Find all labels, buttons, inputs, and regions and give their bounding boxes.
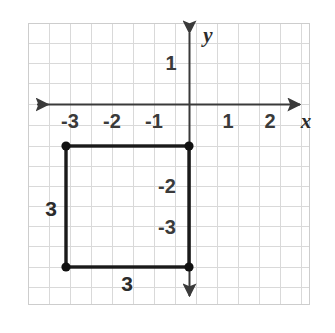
x-tick-label-pos-2: 2 xyxy=(264,111,275,131)
x-tick-label-neg-2: -2 xyxy=(103,111,121,131)
x-tick-label-pos-1: 1 xyxy=(222,111,233,131)
x-tick-label-neg-1: -1 xyxy=(145,111,163,131)
y-tick-label-neg-2: -2 xyxy=(158,176,176,196)
bottom-side-length-label: 3 xyxy=(121,273,133,294)
y-tick-label-pos-1: 1 xyxy=(165,53,176,73)
vertex-top-left xyxy=(61,141,70,150)
x-tick-label-neg-3: -3 xyxy=(61,111,79,131)
vertex-top-right xyxy=(184,141,193,150)
vertex-bottom-right xyxy=(184,262,193,271)
y-axis-label: y xyxy=(203,25,212,46)
coordinate-plane-figure: -3 -2 -1 1 2 1 -2 -3 x y 3 3 xyxy=(0,0,335,333)
left-side-length-label: 3 xyxy=(45,198,57,219)
y-tick-label-neg-3: -3 xyxy=(158,217,176,237)
vertex-bottom-left xyxy=(61,262,70,271)
x-axis-label: x xyxy=(301,111,312,132)
coordinate-plane-svg xyxy=(0,0,335,333)
